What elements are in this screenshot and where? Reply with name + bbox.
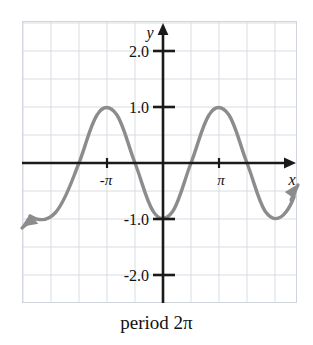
- figure-caption: period 2π: [0, 312, 313, 334]
- x-axis-label: x: [287, 171, 295, 188]
- x-axis-arrowhead: [284, 158, 296, 169]
- trig-graph-figure: y x 2.0 1.0 -1.0 -2.0 -π π period 2π: [0, 0, 313, 345]
- y-tick-label-neg1: -1.0: [124, 211, 149, 228]
- cosine-curve: [22, 108, 298, 229]
- axes: [22, 23, 296, 303]
- x-tick-label-pi: π: [217, 172, 225, 188]
- x-tick-label-neg-pi: -π: [100, 172, 113, 188]
- y-axis-arrowhead: [158, 23, 169, 35]
- y-axis-label: y: [144, 24, 154, 42]
- y-tick-label-2: 2.0: [129, 43, 149, 60]
- graph-canvas: y x 2.0 1.0 -1.0 -2.0 -π π: [0, 0, 313, 345]
- y-tick-label-neg2: -2.0: [124, 267, 149, 284]
- y-tick-label-1: 1.0: [129, 99, 149, 116]
